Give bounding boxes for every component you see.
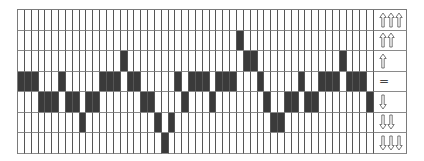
grid-cell (326, 51, 333, 72)
grid-cell (25, 133, 32, 154)
filled-cell (155, 113, 162, 134)
grid-cell (292, 113, 299, 134)
grid-cell (230, 51, 237, 72)
grid-cell (196, 31, 203, 52)
grid-cell (251, 72, 258, 93)
grid-cell (148, 31, 155, 52)
grid-cell (162, 113, 169, 134)
grid-cell (134, 92, 141, 113)
grid-cell (237, 51, 244, 72)
grid-cell (333, 10, 340, 31)
grid-cell (258, 31, 265, 52)
grid-cell (107, 113, 114, 134)
grid-cell (203, 10, 210, 31)
grid-cell (258, 133, 265, 154)
grid-cell (360, 31, 367, 52)
grid-cell (216, 10, 223, 31)
grid-cell (196, 10, 203, 31)
grid-cell (32, 92, 39, 113)
filled-cell (278, 113, 285, 134)
grid-cell (189, 51, 196, 72)
grid-cell (244, 133, 251, 154)
grid-cell (169, 31, 176, 52)
filled-cell (353, 72, 360, 93)
grid-cell (93, 10, 100, 31)
grid-cell (326, 92, 333, 113)
grid-cell (340, 31, 347, 52)
grid-cell (59, 133, 66, 154)
filled-cell (292, 92, 299, 113)
filled-cell (100, 72, 107, 93)
grid-cell (223, 10, 230, 31)
grid-cell (39, 133, 46, 154)
filled-cell (196, 72, 203, 93)
grid-cell (340, 92, 347, 113)
grid-cell (230, 31, 237, 52)
grid-cell (66, 113, 73, 134)
grid-cell (251, 133, 258, 154)
grid-cell (196, 92, 203, 113)
grid-cell (162, 10, 169, 31)
grid-cell (93, 72, 100, 93)
grid-cell (86, 51, 93, 72)
grid-cell (251, 92, 258, 113)
grid-cell (258, 10, 265, 31)
grid-cell (59, 51, 66, 72)
grid-cell (305, 31, 312, 52)
grid-cell (353, 31, 360, 52)
grid-cell (189, 31, 196, 52)
grid-cell (210, 31, 217, 52)
grid-cell (319, 31, 326, 52)
filled-cell (251, 51, 258, 72)
grid-cell (340, 133, 347, 154)
grid-cell (141, 113, 148, 134)
grid-cell (107, 133, 114, 154)
grid-cell (155, 72, 162, 93)
grid-cell (114, 31, 121, 52)
grid-cell (319, 92, 326, 113)
row-label-down-3 (374, 133, 407, 154)
grid-cell (367, 10, 374, 31)
grid-cell (223, 92, 230, 113)
grid-cell (128, 133, 135, 154)
grid-cell (347, 133, 354, 154)
grid-cell (39, 51, 46, 72)
row-label-up-1 (374, 51, 407, 72)
filled-cell (141, 92, 148, 113)
pitch-contour-grid: = (17, 9, 407, 154)
grid-cell (326, 10, 333, 31)
grid-cell (45, 51, 52, 72)
grid-cell (182, 113, 189, 134)
grid-cell (100, 92, 107, 113)
filled-cell (134, 72, 141, 93)
grid-cell (52, 51, 59, 72)
grid-cell (73, 113, 80, 134)
grid-cell (367, 31, 374, 52)
grid-cell (353, 133, 360, 154)
grid-cell (258, 113, 265, 134)
grid-cell (189, 133, 196, 154)
grid-cell (285, 113, 292, 134)
grid-cell (305, 72, 312, 93)
grid-cell (155, 92, 162, 113)
grid-cell (128, 92, 135, 113)
grid-cell (264, 113, 271, 134)
arrow-down-icon (379, 135, 405, 151)
grid-cell (134, 133, 141, 154)
grid-cell (271, 72, 278, 93)
grid-cell (134, 31, 141, 52)
grid-cell (182, 72, 189, 93)
grid-cell (333, 51, 340, 72)
grid-cell (258, 92, 265, 113)
grid-cell (18, 113, 25, 134)
grid-cell (52, 133, 59, 154)
grid-cell (86, 10, 93, 31)
grid-cell (216, 113, 223, 134)
grid-cell (86, 31, 93, 52)
grid-cell (360, 133, 367, 154)
grid-cell (292, 10, 299, 31)
grid-cell (148, 51, 155, 72)
grid-cell (312, 51, 319, 72)
grid-cell (216, 51, 223, 72)
grid-cell (32, 10, 39, 31)
